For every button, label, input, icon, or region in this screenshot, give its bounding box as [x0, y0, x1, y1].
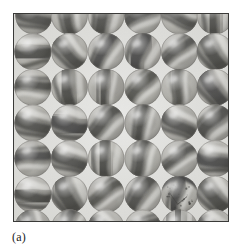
figure-caption: (a): [12, 230, 26, 244]
figure-root: (a): [0, 0, 242, 246]
marble-grid: [14, 14, 228, 221]
marbles-photograph: [14, 14, 228, 221]
photograph-frame: [13, 13, 229, 222]
